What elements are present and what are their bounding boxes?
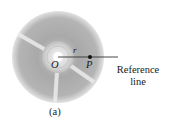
reference-line-label: Reference line — [110, 64, 166, 88]
disc-diagram — [0, 0, 170, 123]
radius-label: r — [73, 46, 77, 55]
origin-label: O — [51, 60, 59, 71]
reference-line-label-line1: Reference — [110, 64, 166, 76]
rotating-disc-figure: r O P Reference line (a) — [0, 0, 170, 123]
reference-line-label-line2: line — [110, 76, 166, 88]
figure-caption: (a) — [49, 107, 61, 118]
point-label: P — [86, 60, 92, 71]
